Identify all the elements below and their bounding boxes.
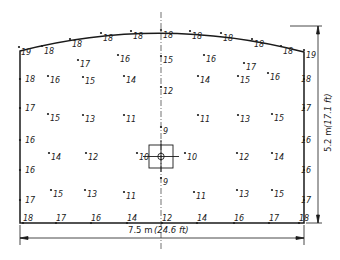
illuminance-value: 9 (163, 178, 168, 187)
illuminance-value: 15 (240, 76, 250, 85)
illuminance-value: 18 (223, 34, 233, 43)
measurement-point-icon (197, 75, 199, 77)
measurement-point-icon (117, 54, 119, 56)
height-label-ft: (17.1 ft) (323, 93, 333, 128)
measurement-point-icon (84, 189, 86, 191)
illuminance-value: 9 (163, 127, 168, 136)
left-edge-values: 1817161617 (19, 75, 36, 205)
measurement-point-icon (160, 55, 162, 57)
illuminance-value: 17 (301, 104, 312, 113)
measurement-point-icon (280, 45, 282, 47)
measurement-point-icon (82, 76, 84, 78)
illuminance-value: 18 (283, 47, 293, 56)
illuminance-value: 14 (126, 76, 136, 85)
illuminance-value: 18 (192, 32, 202, 41)
illuminance-value: 18 (23, 214, 33, 223)
measurement-point-icon (160, 177, 162, 179)
measurement-point-icon (251, 38, 253, 40)
measurement-point-icon (19, 199, 21, 201)
illuminance-value: 12 (88, 153, 98, 162)
illuminance-value: 18 (103, 34, 113, 43)
illuminance-value: 15 (163, 56, 173, 65)
illuminance-value: 15 (274, 190, 284, 199)
illuminance-value: 13 (240, 115, 250, 124)
illuminance-value: 12 (239, 153, 249, 162)
measurement-point-icon (160, 86, 162, 88)
illuminance-value: 10 (139, 153, 149, 162)
illuminance-value: 14 (51, 153, 61, 162)
measurement-point-icon (271, 189, 273, 191)
measurement-point-icon (19, 78, 21, 80)
illuminance-value: 17 (246, 63, 257, 72)
measurement-point-icon (48, 152, 50, 154)
measurement-point-icon (136, 152, 138, 154)
measurement-point-icon (236, 189, 238, 191)
illuminance-value: 16 (234, 214, 244, 223)
illuminance-value: 17 (301, 196, 312, 205)
illuminance-value: 17 (269, 214, 280, 223)
measurement-point-icon (267, 72, 269, 74)
illuminance-value: 15 (50, 114, 60, 123)
measurement-point-icon (189, 30, 191, 32)
illuminance-value: 18 (301, 75, 311, 84)
illuminance-value: 16 (270, 73, 280, 82)
illuminance-value: 11 (196, 192, 206, 201)
illuminance-value: 12 (163, 87, 173, 96)
illuminance-value: 16 (91, 214, 101, 223)
measurement-point-icon (184, 152, 186, 154)
illuminance-value: 16 (50, 76, 60, 85)
illuminance-value: 17 (80, 60, 91, 69)
measurement-point-icon (19, 139, 21, 141)
measurement-point-icon (100, 32, 102, 34)
illuminance-value: 15 (85, 77, 95, 86)
illuminance-value: 16 (301, 166, 311, 175)
illuminance-value: 17 (25, 104, 36, 113)
measurement-point-icon (303, 49, 305, 51)
illuminance-value: 11 (126, 192, 136, 201)
interior-values: 1716151617161514121415161513119111315141… (47, 54, 284, 201)
measurement-point-icon (77, 59, 79, 61)
illuminance-value: 13 (239, 190, 249, 199)
illuminance-value: 15 (274, 114, 284, 123)
illuminance-value: 11 (126, 115, 136, 124)
illuminance-value: 18 (25, 75, 35, 84)
illuminance-value: 14 (274, 153, 284, 162)
illuminance-value: 18 (254, 40, 264, 49)
width-label-m: 7.5 m (128, 225, 153, 235)
illuminance-value: 13 (87, 190, 97, 199)
measurement-point-icon (193, 191, 195, 193)
illuminance-value: 14 (197, 214, 207, 223)
illuminance-value: 18 (133, 32, 143, 41)
measurement-point-icon (69, 38, 71, 40)
illuminance-value: 13 (85, 115, 95, 124)
measurement-point-icon (236, 152, 238, 154)
measurement-point-icon (160, 29, 162, 31)
illuminance-value: 15 (53, 190, 63, 199)
measurement-point-icon (271, 113, 273, 115)
measurement-point-icon (203, 54, 205, 56)
illuminance-value: 14 (127, 214, 137, 223)
measurement-point-icon (160, 126, 162, 128)
illuminance-value: 18 (299, 214, 309, 223)
measurement-point-icon (19, 169, 21, 171)
illuminance-value: 18 (163, 31, 173, 40)
width-label-ft: (24.6 ft) (154, 225, 189, 235)
illuminance-value: 18 (44, 47, 54, 56)
illuminance-value: 17 (25, 196, 36, 205)
measurement-point-icon (18, 46, 20, 48)
measurement-point-icon (237, 75, 239, 77)
measurement-point-icon (130, 30, 132, 32)
measurement-point-icon (123, 75, 125, 77)
illuminance-value: 16 (206, 55, 216, 64)
illuminance-value: 14 (200, 76, 210, 85)
illuminance-value: 10 (187, 153, 197, 162)
measurement-point-icon (197, 114, 199, 116)
measurement-point-icon (85, 152, 87, 154)
measurement-point-icon (271, 152, 273, 154)
measurement-point-icon (243, 62, 245, 64)
illuminance-value: 16 (25, 136, 35, 145)
right-edge-values: 1817161617 (301, 75, 312, 205)
measurement-point-icon (220, 32, 222, 34)
measurement-point-icon (47, 113, 49, 115)
measurement-point-icon (82, 114, 84, 116)
